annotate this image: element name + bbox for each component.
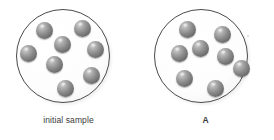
particle-sphere [36, 22, 53, 39]
particle-sphere [171, 45, 188, 62]
particle-sphere [176, 70, 193, 87]
caption-sample-a: A [137, 115, 274, 125]
particle-sphere [192, 40, 209, 57]
particle-sphere [217, 48, 234, 65]
figure-canvas: initial sample A [0, 0, 274, 140]
particle-sphere [46, 56, 63, 73]
panel-sample-a: A [137, 0, 274, 140]
particle-sphere [54, 36, 71, 53]
particle-sphere [57, 80, 74, 97]
particle-sphere [214, 26, 231, 43]
particle-sphere [20, 45, 37, 62]
particle-sphere [179, 21, 196, 38]
particle-sphere [233, 60, 250, 77]
stray-speck-mark [247, 35, 249, 37]
particle-sphere [83, 67, 100, 84]
particle-sphere [207, 80, 224, 97]
particle-sphere [74, 20, 91, 37]
panel-initial-sample: initial sample [0, 0, 137, 140]
caption-initial-sample: initial sample [0, 115, 137, 125]
particle-sphere [87, 41, 104, 58]
